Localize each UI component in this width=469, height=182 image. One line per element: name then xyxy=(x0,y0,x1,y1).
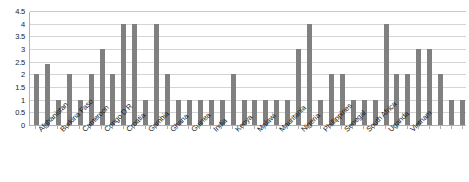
x-axis-tick-mark xyxy=(418,126,419,129)
y-axis-tick-label: 4.5 xyxy=(15,8,25,16)
x-axis-tick-mark xyxy=(374,126,375,129)
x-axis-tick-mark xyxy=(90,126,91,129)
bar xyxy=(209,100,214,125)
x-axis-tick-mark xyxy=(243,126,244,129)
x-axis-tick-mark xyxy=(287,126,288,129)
x-axis-tick-mark xyxy=(134,126,135,129)
y-axis-tick-label: 3.5 xyxy=(15,34,25,42)
x-axis-tick-mark xyxy=(429,126,430,129)
y-axis-tick-label: 0.5 xyxy=(15,110,25,118)
x-axis-tick-mark xyxy=(352,126,353,129)
y-axis-tick-label: 0 xyxy=(21,122,25,130)
x-axis-tick-mark xyxy=(46,126,47,129)
x-axis-tick-mark xyxy=(462,126,463,129)
bar xyxy=(34,74,39,125)
x-axis-tick-mark xyxy=(68,126,69,129)
bar xyxy=(132,24,137,125)
x-axis-tick-mark xyxy=(396,126,397,129)
x-axis-tick-mark xyxy=(199,126,200,129)
bar xyxy=(143,100,148,125)
x-axis-tick-mark xyxy=(156,126,157,129)
bar xyxy=(154,24,159,125)
bar xyxy=(460,100,465,125)
bar-chart: 00.511.522.533.544.5 AfghanistanBurkina … xyxy=(0,0,469,182)
y-axis-tick-label: 2.5 xyxy=(15,59,25,67)
y-axis: 00.511.522.533.544.5 xyxy=(0,12,27,126)
x-axis: AfghanistanBurkina FasoCameroonCongo D R… xyxy=(29,126,466,182)
x-axis-tick-mark xyxy=(265,126,266,129)
bar xyxy=(187,100,192,125)
y-axis-tick-label: 1.5 xyxy=(15,84,25,92)
bar xyxy=(438,74,443,125)
y-axis-tick-label: 2 xyxy=(21,72,25,80)
bar xyxy=(318,100,323,125)
x-axis-tick-mark xyxy=(451,126,452,129)
x-axis-tick-mark xyxy=(330,126,331,129)
x-axis-tick-mark xyxy=(309,126,310,129)
x-axis-tick-mark xyxy=(112,126,113,129)
plot-area xyxy=(29,12,466,126)
y-axis-tick-label: 1 xyxy=(21,97,25,105)
bar xyxy=(231,74,236,125)
y-axis-tick-label: 4 xyxy=(21,21,25,29)
bar xyxy=(307,24,312,125)
bar xyxy=(274,100,279,125)
bar-series xyxy=(30,12,466,125)
bar xyxy=(252,100,257,125)
x-axis-tick-mark xyxy=(221,126,222,129)
y-axis-tick-label: 3 xyxy=(21,46,25,54)
bar xyxy=(449,100,454,125)
x-axis-tick-mark xyxy=(440,126,441,129)
x-axis-tick-mark xyxy=(177,126,178,129)
